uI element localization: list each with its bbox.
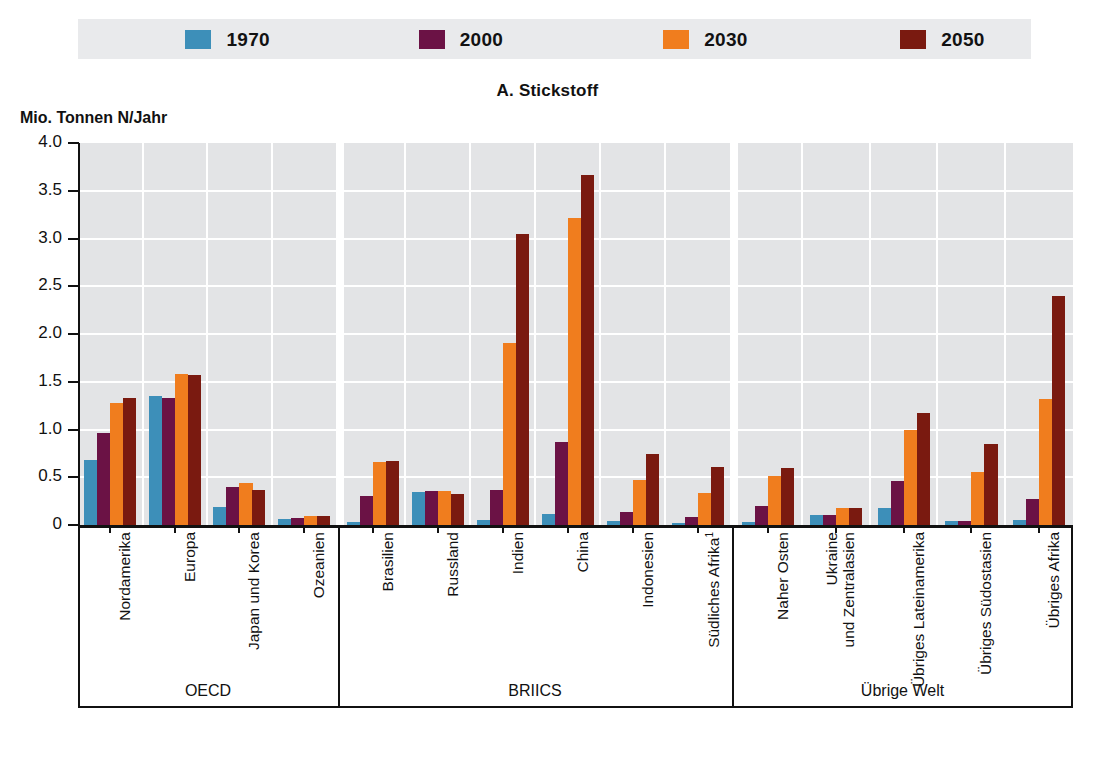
group-separator [338,528,340,706]
group-label-Übrige Welt: Übrige Welt [732,682,1073,700]
group-separator [78,528,80,706]
group-baseline [78,706,338,708]
group-label-OECD: OECD [78,682,338,700]
group-separator [1071,528,1073,706]
group-label-BRIICS: BRIICS [338,682,732,700]
group-baseline [338,706,732,708]
group-labels-layer: OECDBRIICSÜbrige Welt [0,0,1095,773]
chart-page: 1970200020302050 A. Stickstoff Mio. Tonn… [0,0,1095,773]
group-baseline [732,706,1073,708]
group-separator [732,528,734,706]
